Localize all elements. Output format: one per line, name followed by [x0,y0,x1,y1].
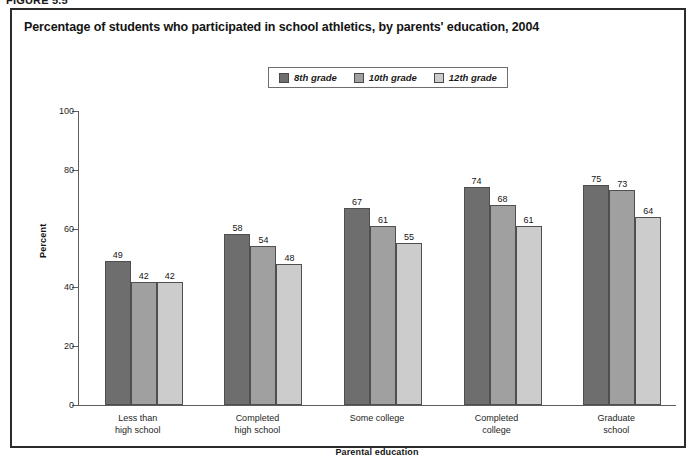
chart-legend: 8th grade 10th grade 12th grade [268,67,508,88]
bar: 74 [464,187,490,405]
x-axis-category-label-line: college [437,425,557,437]
x-axis-category-label: Graduateschool [556,413,676,436]
bar-group: 676155 [344,111,422,405]
x-axis-title: Parental education [78,447,676,456]
chart-title: Percentage of students who participated … [24,20,539,34]
bar: 64 [635,217,661,405]
bar-value-label: 42 [165,271,175,281]
bar: 58 [224,234,250,405]
bar: 73 [609,190,635,405]
x-axis-category-label: Less thanhigh school [78,413,198,436]
bar: 68 [490,205,516,405]
x-axis-category-label-line: Completed [437,413,557,425]
y-axis-tick-label: 0 [69,400,74,410]
bar-value-label: 49 [113,250,123,260]
bar-value-label: 55 [404,232,414,242]
y-axis-title: Percent [38,224,48,258]
bar: 54 [250,246,276,405]
y-axis-tick-label: 80 [64,165,74,175]
x-axis-category-label: Completedhigh school [198,413,318,436]
bar-value-label: 67 [352,197,362,207]
bar-value-label: 58 [232,223,242,233]
legend-label-10th-grade: 10th grade [369,72,417,83]
bar-value-label: 64 [643,206,653,216]
figure-panel: Percentage of students who participated … [10,8,686,448]
bar-group: 494242 [105,111,183,405]
bar: 75 [583,185,609,406]
y-axis-tick-label: 20 [64,341,74,351]
plot-area: 020406080100 494242585448676155746861757… [78,111,676,405]
bar-value-label: 73 [617,179,627,189]
legend-swatch-12th-grade [434,73,444,83]
x-axis-category-label-line: Completed [198,413,318,425]
bar: 67 [344,208,370,405]
x-axis-category-label: Some college [317,413,437,425]
x-axis-category-label-line: high school [198,425,318,437]
bar: 55 [396,243,422,405]
x-axis-category-label-line: Some college [317,413,437,425]
bar-value-label: 61 [524,215,534,225]
legend-swatch-8th-grade [279,73,289,83]
bar-value-label: 48 [284,253,294,263]
bar-value-label: 42 [139,271,149,281]
bar: 49 [105,261,131,405]
y-axis-tick-label: 40 [64,282,74,292]
legend-item-12th-grade: 12th grade [434,72,497,83]
y-axis-tick-label: 100 [59,106,74,116]
x-axis-category-label: Completedcollege [437,413,557,436]
legend-label-12th-grade: 12th grade [449,72,497,83]
x-axis-category-label-line: school [556,425,676,437]
figure-number-label: FIGURE 5.5 [6,0,68,6]
x-axis-category-label-line: high school [78,425,198,437]
bar: 61 [516,226,542,405]
bar-value-label: 74 [472,176,482,186]
bar: 48 [276,264,302,405]
legend-item-10th-grade: 10th grade [354,72,417,83]
bar: 42 [157,282,183,405]
x-axis-line [78,405,676,406]
bar-value-label: 75 [591,174,601,184]
bar-group: 746861 [464,111,542,405]
y-axis-tick-label: 60 [64,224,74,234]
bar: 42 [131,282,157,405]
bar-value-label: 54 [258,235,268,245]
y-axis-line [78,111,79,406]
bar-value-label: 68 [498,194,508,204]
bar-value-label: 61 [378,215,388,225]
x-axis-category-label-line: Less than [78,413,198,425]
legend-swatch-10th-grade [354,73,364,83]
x-axis-category-label-line: Graduate [556,413,676,425]
bar-group: 757364 [583,111,661,405]
legend-label-8th-grade: 8th grade [294,72,337,83]
legend-item-8th-grade: 8th grade [279,72,337,83]
bar: 61 [370,226,396,405]
bar-group: 585448 [224,111,302,405]
